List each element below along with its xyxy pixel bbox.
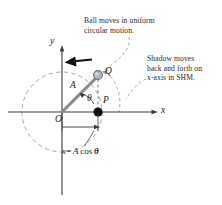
shadow-note-leader [126, 79, 146, 99]
shadow-note-line-1: Shadow moves [147, 54, 202, 64]
shadow-label-p: P [103, 95, 109, 105]
x-axis-arrowhead [152, 110, 159, 115]
equation-operator: = [66, 146, 71, 156]
shm-circular-motion-figure: Ball moves in uniform circular motion. S… [0, 0, 222, 205]
shadow-note-line-2: back and forth on [147, 64, 202, 74]
shm-equation: x= A cos θ [62, 146, 99, 156]
equation-angle: θ [94, 146, 99, 156]
measure-arrowhead [94, 125, 100, 129]
equation-amplitude: A [73, 146, 79, 156]
ball-marker-q [94, 71, 103, 80]
y-axis-arrowhead [60, 45, 65, 52]
radius-label-a: A [70, 80, 76, 90]
shadow-motion-note: Shadow moves back and forth on x-axis in… [147, 54, 202, 83]
projection-arc-dashed [106, 72, 120, 112]
angle-label-theta: θ [87, 93, 92, 103]
motion-direction-arrowhead [65, 57, 77, 67]
ball-note-line-2: circular motion. [84, 26, 155, 36]
equation-function: cos [80, 146, 92, 156]
ball-highlight [95, 72, 98, 75]
shadow-note-line-3: x-axis in SHM. [147, 73, 202, 83]
ball-note-line-1: Ball moves in uniform [84, 16, 155, 26]
ball-motion-note: Ball moves in uniform circular motion. [84, 16, 155, 35]
ball-label-q: Q [105, 66, 112, 76]
origin-label: O [55, 114, 62, 124]
x-axis-label: x [161, 105, 165, 115]
equation-leader-line [85, 131, 95, 146]
y-axis-label: y [50, 36, 54, 46]
